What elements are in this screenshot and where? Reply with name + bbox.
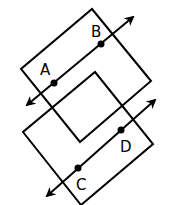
point-A-label: A: [40, 61, 51, 79]
point-A-dot: [51, 80, 58, 87]
point-B-dot: [98, 41, 105, 48]
diagram-canvas: A B C D: [0, 0, 170, 205]
point-D-dot: [118, 127, 125, 134]
point-D-label: D: [120, 138, 132, 156]
point-B-label: B: [91, 23, 101, 41]
parallel-planes-diagram: A B C D: [0, 0, 170, 205]
point-C-label: C: [76, 176, 86, 194]
point-C-dot: [75, 165, 82, 172]
line-CD: [47, 100, 155, 196]
